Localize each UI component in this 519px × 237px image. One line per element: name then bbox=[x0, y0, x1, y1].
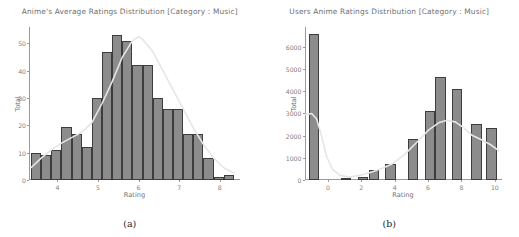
histogram-bar bbox=[341, 178, 351, 180]
x-tick-label: 0 bbox=[326, 184, 330, 191]
histogram-bar bbox=[471, 124, 481, 180]
panel-a-subcaption: (a) bbox=[0, 218, 260, 229]
y-tick-label: 50 bbox=[18, 40, 26, 47]
histogram-bar bbox=[112, 35, 122, 180]
histogram-bar bbox=[173, 109, 183, 180]
y-tick-label: 0 bbox=[22, 177, 26, 184]
y-tick-mark bbox=[27, 43, 29, 44]
x-tick-label: 6 bbox=[137, 184, 141, 191]
x-tick-label: 10 bbox=[491, 184, 499, 191]
x-tick-mark bbox=[328, 180, 329, 182]
histogram-bar bbox=[408, 139, 418, 180]
x-tick-label: 4 bbox=[393, 184, 397, 191]
panel-a-axes: 01020304050 45678 Rating Total bbox=[29, 27, 240, 180]
x-tick-label: 7 bbox=[177, 184, 181, 191]
panel-b-ylabel: Total bbox=[289, 96, 297, 111]
x-tick-mark bbox=[428, 180, 429, 182]
histogram-bar bbox=[486, 128, 496, 180]
x-tick-mark bbox=[220, 180, 221, 182]
y-tick-mark bbox=[27, 71, 29, 72]
y-tick-mark bbox=[303, 47, 305, 48]
x-tick-label: 8 bbox=[218, 184, 222, 191]
histogram-bar bbox=[214, 177, 224, 180]
histogram-bar bbox=[425, 111, 435, 180]
panel-a-bars bbox=[29, 27, 240, 180]
y-tick-mark bbox=[303, 69, 305, 70]
y-tick-label: 40 bbox=[18, 67, 26, 74]
y-tick-mark bbox=[27, 153, 29, 154]
histogram-bar bbox=[203, 158, 213, 180]
histogram-bar bbox=[183, 134, 193, 180]
x-tick-mark bbox=[361, 180, 362, 182]
x-tick-label: 8 bbox=[459, 184, 463, 191]
x-tick-mark bbox=[57, 180, 58, 182]
y-tick-mark bbox=[303, 158, 305, 159]
histogram-bar bbox=[153, 98, 163, 180]
panel-b-title: Users Anime Ratings Distribution [Catego… bbox=[260, 7, 519, 16]
y-tick-mark bbox=[303, 113, 305, 114]
panel-a-title: Anime's Average Ratings Distribution [Ca… bbox=[0, 7, 260, 16]
panel-a: Anime's Average Ratings Distribution [Ca… bbox=[0, 0, 260, 237]
x-tick-mark bbox=[395, 180, 396, 182]
panel-b: Users Anime Ratings Distribution [Catego… bbox=[260, 0, 519, 237]
histogram-bar bbox=[51, 150, 61, 180]
y-tick-mark bbox=[27, 180, 29, 181]
histogram-bar bbox=[224, 175, 234, 180]
histogram-bar bbox=[61, 127, 71, 180]
panel-b-bars bbox=[305, 27, 502, 180]
panel-a-xlabel: Rating bbox=[124, 191, 145, 199]
histogram-bar bbox=[72, 134, 82, 180]
y-tick-mark bbox=[303, 136, 305, 137]
y-tick-label: 5000 bbox=[286, 66, 302, 73]
histogram-bar bbox=[132, 65, 142, 180]
histogram-bar bbox=[143, 65, 153, 180]
histogram-bar bbox=[385, 164, 395, 180]
histogram-bar bbox=[309, 34, 319, 180]
y-tick-label: 0 bbox=[298, 177, 302, 184]
x-tick-label: 2 bbox=[359, 184, 363, 191]
y-tick-mark bbox=[27, 98, 29, 99]
x-tick-mark bbox=[461, 180, 462, 182]
histogram-bar bbox=[163, 109, 173, 180]
y-tick-label: 6000 bbox=[286, 43, 302, 50]
histogram-bar bbox=[102, 52, 112, 180]
x-tick-mark bbox=[139, 180, 140, 182]
y-tick-mark bbox=[27, 125, 29, 126]
x-tick-label: 4 bbox=[55, 184, 59, 191]
histogram-bar bbox=[31, 153, 41, 180]
x-tick-mark bbox=[179, 180, 180, 182]
y-tick-label: 4000 bbox=[286, 88, 302, 95]
histogram-bar bbox=[82, 147, 92, 180]
panel-b-subcaption: (b) bbox=[260, 218, 519, 229]
panel-b-xlabel: Rating bbox=[392, 191, 413, 199]
histogram-bar bbox=[435, 77, 445, 180]
y-tick-mark bbox=[303, 91, 305, 92]
histogram-bar bbox=[92, 98, 102, 180]
x-tick-mark bbox=[495, 180, 496, 182]
y-tick-label: 2000 bbox=[286, 132, 302, 139]
histogram-bar bbox=[452, 89, 462, 180]
figure-container: Anime's Average Ratings Distribution [Ca… bbox=[0, 0, 519, 237]
y-tick-label: 10 bbox=[18, 149, 26, 156]
histogram-bar bbox=[358, 177, 368, 180]
histogram-bar bbox=[369, 170, 379, 180]
panel-a-ylabel: Total bbox=[14, 96, 22, 111]
panel-b-axes: 0100020003000400050006000 0246810 Rating… bbox=[305, 27, 502, 180]
y-tick-label: 1000 bbox=[286, 154, 302, 161]
x-tick-label: 6 bbox=[426, 184, 430, 191]
x-tick-mark bbox=[98, 180, 99, 182]
histogram-bar bbox=[122, 41, 132, 180]
histogram-bar bbox=[193, 134, 203, 180]
y-tick-label: 20 bbox=[18, 122, 26, 129]
y-tick-mark bbox=[303, 180, 305, 181]
x-tick-label: 5 bbox=[96, 184, 100, 191]
histogram-bar bbox=[41, 155, 51, 180]
